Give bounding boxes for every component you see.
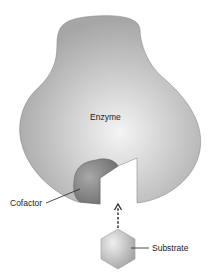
enzyme-label: Enzyme xyxy=(90,113,121,122)
substrate-shape xyxy=(101,229,135,269)
substrate-label: Substrate xyxy=(152,244,188,253)
enzyme-diagram xyxy=(0,0,211,280)
enzyme-shape xyxy=(20,16,201,204)
cofactor-label: Cofactor xyxy=(10,199,42,208)
